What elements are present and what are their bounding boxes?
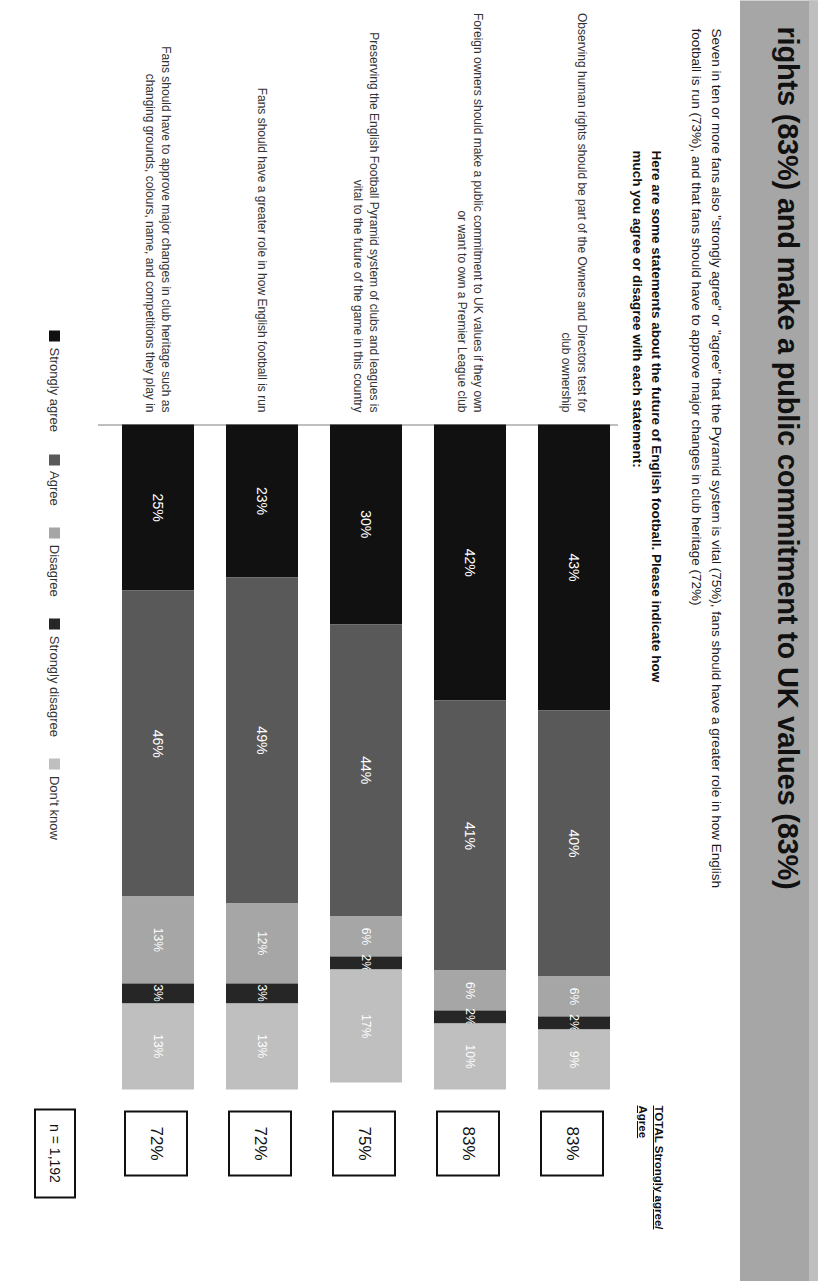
segment-strongly-disagree[interactable]: 2% xyxy=(538,1016,610,1029)
segment-strongly-agree[interactable]: 43% xyxy=(538,424,610,710)
legend-label: Agree xyxy=(47,471,62,506)
page-title: rights (83%) and make a public commitmen… xyxy=(771,26,804,1256)
total-column-header: TOTAL Strongly agree/ Agree xyxy=(635,1105,666,1255)
stacked-bar: 43% 40% 6% 2% 9% xyxy=(538,424,610,1089)
base-size-note: n = 1,192 xyxy=(34,1108,76,1198)
legend-item-dont-know[interactable]: Don't know xyxy=(47,758,62,839)
total-value-box: 83% xyxy=(540,1110,604,1176)
legend-label: Disagree xyxy=(47,544,62,596)
segment-agree[interactable]: 44% xyxy=(330,624,402,917)
segment-value: 6% xyxy=(463,981,477,998)
legend-swatch-icon xyxy=(49,330,60,341)
slide-frame: rights (83%) and make a public commitmen… xyxy=(0,0,818,1281)
segment-value: 2% xyxy=(359,954,373,971)
segment-strongly-disagree[interactable]: 2% xyxy=(330,956,402,969)
segment-disagree[interactable]: 6% xyxy=(434,970,506,1009)
segment-agree[interactable]: 40% xyxy=(538,710,610,976)
total-value-box: 72% xyxy=(124,1110,188,1176)
segment-value: 42% xyxy=(462,548,478,576)
segment-value: 46% xyxy=(150,729,166,757)
chart-plot-area: Observing human rights should be part of… xyxy=(98,0,618,1281)
total-value-box: 83% xyxy=(436,1110,500,1176)
title-accent-bar xyxy=(809,0,818,1281)
segment-disagree[interactable]: 6% xyxy=(538,976,610,1016)
stacked-bar: 25% 46% 13% 3% 13% xyxy=(122,424,194,1089)
chart-row: Observing human rights should be part of… xyxy=(530,0,618,1281)
chart-row: Fans should have a greater role in how E… xyxy=(218,0,306,1281)
segment-value: 23% xyxy=(254,486,270,514)
segment-value: 12% xyxy=(255,931,269,955)
chart-row: Preserving the English Football Pyramid … xyxy=(322,0,410,1281)
segment-strongly-disagree[interactable]: 2% xyxy=(434,1010,506,1023)
legend-swatch-icon xyxy=(49,618,60,629)
segment-value: 9% xyxy=(567,1050,581,1067)
segment-value: 6% xyxy=(359,927,373,944)
segment-agree[interactable]: 46% xyxy=(122,590,194,896)
segment-value: 40% xyxy=(566,829,582,857)
segment-value: 13% xyxy=(151,1034,165,1058)
segment-value: 43% xyxy=(566,553,582,581)
category-label: Preserving the English Football Pyramid … xyxy=(350,12,382,412)
segment-strongly-agree[interactable]: 30% xyxy=(330,424,402,624)
segment-dont-know[interactable]: 9% xyxy=(538,1029,610,1089)
legend-item-strongly-agree[interactable]: Strongly agree xyxy=(47,330,62,432)
segment-strongly-disagree[interactable]: 3% xyxy=(226,983,298,1003)
segment-value: 13% xyxy=(255,1034,269,1058)
segment-strongly-agree[interactable]: 42% xyxy=(434,424,506,700)
legend-item-strongly-disagree[interactable]: Strongly disagree xyxy=(47,618,62,736)
segment-value: 13% xyxy=(151,927,165,951)
segment-value: 49% xyxy=(254,726,270,754)
total-value-box: 75% xyxy=(332,1110,396,1176)
segment-agree[interactable]: 49% xyxy=(226,577,298,903)
segment-strongly-disagree[interactable]: 3% xyxy=(122,983,194,1003)
segment-dont-know[interactable]: 13% xyxy=(122,1003,194,1089)
segment-value: 44% xyxy=(358,756,374,784)
legend-label: Don't know xyxy=(47,775,62,839)
segment-value: 2% xyxy=(463,1008,477,1025)
segment-disagree[interactable]: 12% xyxy=(226,903,298,983)
segment-value: 6% xyxy=(567,987,581,1004)
segment-dont-know[interactable]: 13% xyxy=(226,1003,298,1089)
title-band: rights (83%) and make a public commitmen… xyxy=(740,0,818,1281)
segment-value: 2% xyxy=(567,1014,581,1031)
segment-strongly-agree[interactable]: 25% xyxy=(122,424,194,590)
slide: rights (83%) and make a public commitmen… xyxy=(0,0,818,1281)
question-text: Here are some statements about the futur… xyxy=(628,150,666,710)
segment-value: 10% xyxy=(463,1044,477,1068)
segment-dont-know[interactable]: 10% xyxy=(434,1023,506,1089)
subtitle-text: Seven in ten or more fans also "strongly… xyxy=(687,28,726,928)
legend-swatch-icon xyxy=(49,454,60,465)
segment-value: 17% xyxy=(359,1014,373,1038)
segment-disagree[interactable]: 6% xyxy=(330,916,402,956)
category-label: Foreign owners should make a public comm… xyxy=(454,12,486,412)
category-label: Observing human rights should be part of… xyxy=(558,12,590,412)
legend-item-disagree[interactable]: Disagree xyxy=(47,527,62,596)
segment-strongly-agree[interactable]: 23% xyxy=(226,424,298,577)
category-label: Fans should have a greater role in how E… xyxy=(254,12,270,412)
segment-value: 3% xyxy=(151,984,165,1001)
segment-dont-know[interactable]: 17% xyxy=(330,969,402,1082)
category-label: Fans should have to approve major change… xyxy=(142,12,174,412)
segment-value: 30% xyxy=(358,510,374,538)
legend-swatch-icon xyxy=(49,758,60,769)
stacked-bar: 30% 44% 6% 2% 17% xyxy=(330,424,402,1089)
chart-row: Foreign owners should make a public comm… xyxy=(426,0,514,1281)
chart-legend: Strongly agree Agree Disagree Strongly d… xyxy=(47,330,62,1030)
segment-agree[interactable]: 41% xyxy=(434,700,506,970)
stacked-bar: 23% 49% 12% 3% 13% xyxy=(226,424,298,1089)
segment-value: 3% xyxy=(255,984,269,1001)
legend-swatch-icon xyxy=(49,527,60,538)
total-value-box: 72% xyxy=(228,1110,292,1176)
legend-label: Strongly disagree xyxy=(47,635,62,736)
chart-row: Fans should have to approve major change… xyxy=(114,0,202,1281)
segment-value: 25% xyxy=(150,493,166,521)
legend-item-agree[interactable]: Agree xyxy=(47,454,62,506)
legend-label: Strongly agree xyxy=(47,347,62,432)
stacked-bar: 42% 41% 6% 2% 10% xyxy=(434,424,506,1089)
segment-value: 41% xyxy=(462,821,478,849)
segment-disagree[interactable]: 13% xyxy=(122,896,194,982)
